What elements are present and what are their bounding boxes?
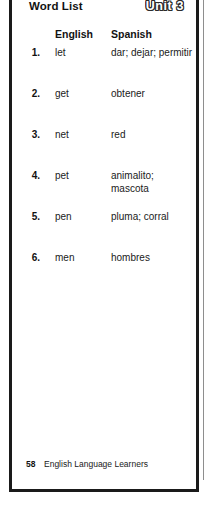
column-header-spanish: Spanish — [111, 28, 152, 40]
word-row-english: net — [55, 129, 69, 140]
word-row-spanish: animalito; mascota — [111, 170, 193, 195]
page-edge-line — [203, 0, 204, 480]
column-header-english: English — [55, 28, 93, 40]
word-row-english: men — [55, 252, 74, 263]
word-row: 3.netred — [12, 129, 196, 170]
textbook-page: Word List Unit 3 English Spanish 1.letda… — [9, 0, 199, 492]
word-row-spanish: obtener — [111, 88, 193, 101]
word-row-number: 5. — [22, 211, 40, 222]
word-row-spanish: hombres — [111, 252, 193, 265]
word-row-number: 1. — [22, 47, 40, 58]
word-row-english: get — [55, 88, 69, 99]
footer-label: English Language Learners — [44, 459, 148, 469]
word-row-english: pen — [55, 211, 72, 222]
word-row-english: pet — [55, 170, 69, 181]
word-row: 6.menhombres — [12, 252, 196, 293]
word-row-number: 3. — [22, 129, 40, 140]
word-row-spanish: dar; dejar; permitir — [111, 47, 193, 60]
page-title: Word List — [29, 0, 83, 12]
word-list: 1.letdar; dejar; permitir2.getobtener3.n… — [12, 47, 196, 293]
word-row: 2.getobtener — [12, 88, 196, 129]
word-row-number: 2. — [22, 88, 40, 99]
unit-badge: Unit 3 — [146, 0, 184, 13]
word-row-spanish: red — [111, 129, 193, 142]
word-row: 1.letdar; dejar; permitir — [12, 47, 196, 88]
word-row-number: 4. — [22, 170, 40, 181]
column-headers: English Spanish — [12, 28, 196, 44]
word-row: 5.penpluma; corral — [12, 211, 196, 252]
page-footer: 58 English Language Learners — [12, 459, 196, 473]
word-row-spanish: pluma; corral — [111, 211, 193, 224]
word-row: 4.petanimalito; mascota — [12, 170, 196, 211]
footer-page-number: 58 — [26, 459, 35, 469]
word-row-english: let — [55, 47, 66, 58]
word-row-number: 6. — [22, 252, 40, 263]
page-header: Word List Unit 3 — [12, 0, 196, 24]
